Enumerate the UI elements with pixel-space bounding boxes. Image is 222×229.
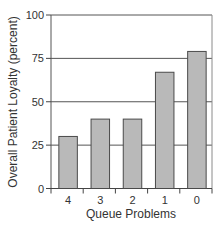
y-axis-ticks: 0255075100 (26, 9, 51, 195)
x-tick-label: 2 (129, 194, 135, 206)
x-tick-label: 1 (162, 194, 168, 206)
bar-chart: 0255075100 43210 Queue Problems Overall … (0, 0, 222, 229)
x-axis-label: Queue Problems (86, 207, 176, 221)
y-tick-label: 50 (32, 96, 44, 108)
bar-1 (155, 72, 174, 188)
y-tick-label: 100 (26, 9, 44, 21)
x-axis-ticks: 43210 (51, 189, 212, 207)
bar-4 (59, 136, 78, 188)
x-tick-label: 4 (65, 194, 71, 206)
y-tick-label: 75 (32, 52, 44, 64)
bar-0 (188, 51, 207, 188)
y-tick-label: 25 (32, 139, 44, 151)
y-axis-label: Overall Patient Loyalty (percent) (6, 16, 20, 187)
x-tick-label: 3 (97, 194, 103, 206)
x-tick-label: 0 (194, 194, 200, 206)
bar-3 (91, 119, 110, 188)
bars (59, 51, 206, 188)
y-tick-label: 0 (38, 183, 44, 195)
bar-2 (123, 119, 142, 188)
